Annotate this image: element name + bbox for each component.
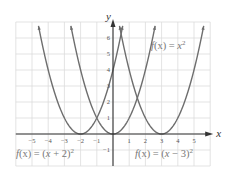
x-tick-label: −4 (45, 137, 53, 144)
x-tick-label: −5 (29, 137, 36, 144)
x-tick-label: −3 (61, 137, 68, 144)
y-tick-label: −1 (103, 146, 110, 153)
tick-labels: −5−4−3−2−112345−1123456 (29, 34, 196, 153)
y-tick-label: 2 (107, 98, 110, 105)
y-tick-label: 3 (107, 82, 110, 89)
label-f-x-squared: f(x) = x2 (151, 39, 186, 52)
x-tick-label: −1 (93, 137, 100, 144)
label-f-x-plus-2-squared: f(x) = (x + 2)2 (16, 147, 74, 160)
y-tick-label: 5 (107, 50, 110, 57)
parabola-chart: −5−4−3−2−112345−1123456 x y f(x) = x2 f(… (0, 0, 229, 176)
x-axis-arrow-icon (205, 132, 213, 137)
x-tick-label: 5 (192, 137, 195, 144)
x-tick-label: 4 (176, 137, 180, 144)
y-tick-label: 1 (107, 114, 110, 121)
x-tick-label: 2 (144, 137, 147, 144)
y-axis-arrow-icon (111, 19, 116, 27)
x-axis-label: x (215, 127, 221, 139)
x-tick-label: 3 (160, 137, 163, 144)
x-tick-label: 1 (128, 137, 131, 144)
y-axis-label: y (105, 10, 111, 22)
label-f-x-minus-3-squared: f(x) = (x − 3)2 (135, 147, 193, 160)
x-tick-label: −2 (77, 137, 84, 144)
